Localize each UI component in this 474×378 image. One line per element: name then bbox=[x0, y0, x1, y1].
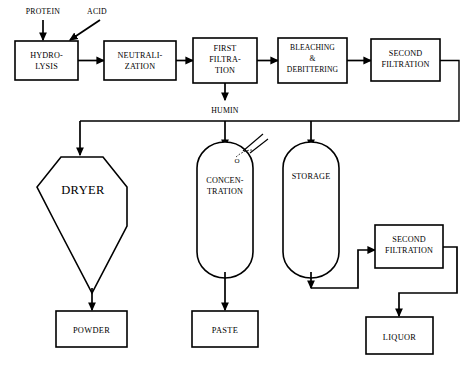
dryer-shape[interactable] bbox=[37, 157, 127, 293]
process-flow-diagram: PROTEIN ACID HYDRO- LYSIS NEUTRALI- ZATI… bbox=[0, 0, 474, 378]
neutralization-label-line2: ZATION bbox=[125, 62, 155, 71]
second-filtration-bottom-label-line1: SECOND bbox=[392, 235, 426, 244]
first-filtration-label-line1: FIRST bbox=[213, 44, 236, 53]
product-liquor[interactable]: LIQUOR bbox=[366, 317, 433, 354]
first-filtration-label-line3: TION bbox=[215, 66, 235, 75]
vent-mark-stroke-1 bbox=[243, 134, 263, 151]
bleaching-label-line1: BLEACHING bbox=[290, 43, 335, 52]
node-neutralization[interactable]: NEUTRALI- ZATION bbox=[104, 41, 176, 80]
input-label-protein: PROTEIN bbox=[26, 7, 60, 16]
product-powder[interactable]: POWDER bbox=[56, 311, 127, 347]
input-protein: PROTEIN bbox=[26, 7, 60, 40]
concentration-label-line1: CONCEN- bbox=[206, 176, 244, 185]
second-filtration-top-label-line1: SECOND bbox=[389, 49, 423, 58]
hydrolysis-box[interactable] bbox=[15, 41, 78, 80]
powder-label: POWDER bbox=[73, 326, 110, 335]
liquor-label: LIQUOR bbox=[383, 333, 417, 342]
neutralization-box[interactable] bbox=[104, 41, 176, 80]
neutralization-label-line1: NEUTRALI- bbox=[117, 51, 162, 60]
process-flow-diagram-page: PROTEIN ACID HYDRO- LYSIS NEUTRALI- ZATI… bbox=[0, 0, 474, 378]
vessel-dryer[interactable]: DRYER bbox=[37, 157, 127, 293]
input-acid: ACID bbox=[70, 7, 107, 40]
stream-humin: HUMIN bbox=[211, 83, 239, 115]
storage-label: STORAGE bbox=[292, 172, 331, 181]
concentration-shape[interactable] bbox=[197, 142, 253, 278]
concentration-label-line2: TRATION bbox=[207, 187, 243, 196]
acid-arrow bbox=[70, 20, 100, 40]
node-second-filtration-bottom[interactable]: SECOND FILTRATION bbox=[375, 225, 443, 268]
node-hydrolysis[interactable]: HYDRO- LYSIS bbox=[15, 41, 78, 80]
humin-label: HUMIN bbox=[211, 106, 239, 115]
dryer-label: DRYER bbox=[61, 183, 105, 197]
second-filtration-top-label-line2: FILTRATION bbox=[381, 60, 429, 69]
input-label-acid: ACID bbox=[87, 7, 107, 16]
node-first-filtration[interactable]: FIRST FILTRA- TION bbox=[193, 38, 257, 83]
second-filtration-bottom-label-line2: FILTRATION bbox=[385, 246, 433, 255]
node-second-filtration-top[interactable]: SECOND FILTRATION bbox=[371, 39, 440, 81]
hydrolysis-label-line1: HYDRO- bbox=[30, 51, 63, 60]
node-bleaching-debittering[interactable]: BLEACHING & DEBITTERING bbox=[278, 38, 347, 83]
vessel-concentration[interactable]: CONCEN- TRATION bbox=[197, 142, 253, 278]
bleaching-label-line3: DEBITTERING bbox=[287, 65, 339, 74]
first-filtration-label-line2: FILTRA- bbox=[209, 55, 241, 64]
product-paste[interactable]: PASTE bbox=[192, 311, 258, 347]
hydrolysis-label-line2: LYSIS bbox=[35, 62, 58, 71]
vessel-storage[interactable]: STORAGE bbox=[283, 142, 339, 278]
vent-mark-stroke-2 bbox=[250, 139, 268, 153]
bleaching-label-line2: & bbox=[309, 54, 315, 63]
vent-mark-label: O bbox=[234, 157, 239, 165]
storage-shape[interactable] bbox=[283, 142, 339, 278]
paste-label: PASTE bbox=[212, 326, 238, 335]
